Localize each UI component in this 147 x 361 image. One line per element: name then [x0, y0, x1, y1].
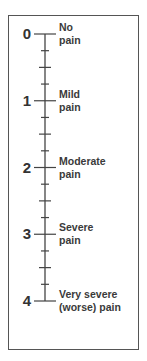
level-number: 4	[23, 292, 32, 309]
level-label: Very severe	[59, 288, 118, 300]
level-label: pain	[59, 34, 81, 46]
level-number: 1	[23, 92, 31, 109]
level-label: pain	[59, 234, 81, 246]
level-label: pain	[59, 101, 81, 113]
level-label: Severe	[59, 221, 94, 233]
level-number: 3	[23, 225, 31, 242]
level-label: Mild	[59, 88, 80, 100]
level-label: (worse) pain	[59, 301, 121, 313]
level-number: 2	[23, 159, 31, 176]
level-label: No	[59, 21, 73, 33]
level-number: 0	[23, 25, 31, 42]
level-label: Moderate	[59, 155, 106, 167]
pain-scale: 0Nopain1Mildpain2Moderatepain3Severepain…	[0, 0, 147, 361]
level-label: pain	[59, 168, 81, 180]
